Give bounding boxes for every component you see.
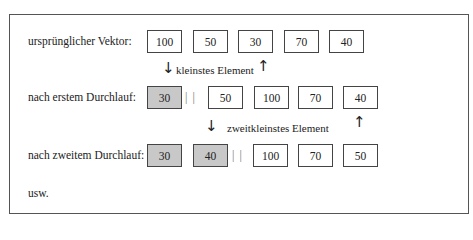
row-label-original: ursprünglicher Vektor: [28, 35, 132, 47]
vector-cell: 100 [147, 30, 182, 53]
vector-cell: 70 [298, 86, 333, 109]
arrow-up-icon: ↑ [257, 59, 270, 74]
row-label-first-pass: nach erstem Durchlauf: [28, 91, 136, 103]
annotation-second-smallest: zweitkleinstes Element [227, 122, 329, 134]
vector-cell: 50 [193, 30, 228, 53]
vector-cell-sorted: 30 [147, 86, 182, 109]
vector-cell: 40 [329, 30, 364, 53]
arrow-up-icon: ↑ [353, 115, 366, 130]
vector-cell: 50 [208, 86, 243, 109]
arrow-down-icon: ↓ [162, 61, 175, 76]
vector-cell-sorted: 40 [193, 144, 228, 167]
vector-cell: 40 [343, 86, 378, 109]
vector-cell: 70 [284, 30, 319, 53]
vector-cell: 100 [254, 86, 289, 109]
annotation-smallest: kleinstes Element [176, 64, 254, 76]
row-label-second-pass: nach zweitem Durchlauf: [28, 149, 144, 161]
footer-etc: usw. [28, 187, 49, 199]
vector-cell: 30 [238, 30, 273, 53]
vector-cell: 50 [343, 144, 378, 167]
sorted-separator: | | [232, 148, 243, 163]
vector-cell: 70 [298, 144, 333, 167]
vector-cell-sorted: 30 [147, 144, 182, 167]
arrow-down-icon: ↓ [205, 119, 218, 134]
vector-cell: 100 [253, 144, 288, 167]
sorted-separator: | | [185, 90, 196, 105]
